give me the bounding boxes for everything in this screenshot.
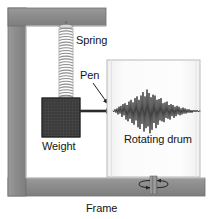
seismograph-illustration [0,0,215,219]
weight-block [42,98,80,137]
label-spring: Spring [76,35,107,46]
spring-coils [59,28,73,97]
frame-left-column [8,8,26,196]
label-pen: Pen [80,70,99,81]
spring [59,21,73,101]
label-rotating-drum: Rotating drum [124,134,192,145]
rotating-drum [107,60,200,194]
frame-bottom-beam [8,178,205,196]
drum-axle [150,176,157,194]
label-frame: Frame [86,203,117,214]
pen-leader-line [93,83,108,104]
seismograph-figure: Spring Pen Weight Rotating drum Frame [0,0,215,219]
label-weight: Weight [42,141,75,152]
frame-top-beam [8,8,106,26]
